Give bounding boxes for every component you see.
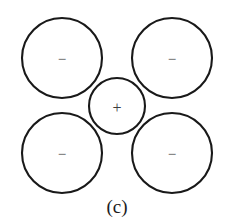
ion-anion-bottom-right: − [132, 113, 212, 193]
cation-center-charge: + [112, 99, 121, 116]
ion-anion-top-right: − [132, 18, 212, 98]
figure-container: − − − − + (c) [0, 0, 231, 223]
anion-bottom-left-charge: − [58, 146, 66, 162]
figure-caption: (c) [106, 196, 127, 218]
ion-anion-bottom-left: − [22, 113, 102, 193]
ion-anion-top-left: − [22, 18, 102, 98]
anion-top-right-charge: − [168, 51, 176, 67]
anion-top-left-charge: − [58, 51, 66, 67]
ion-cation-center: + [89, 78, 145, 134]
cation-group: + [89, 78, 145, 134]
ionic-packing-diagram: − − − − + (c) [0, 0, 231, 223]
anion-bottom-right-charge: − [168, 146, 176, 162]
